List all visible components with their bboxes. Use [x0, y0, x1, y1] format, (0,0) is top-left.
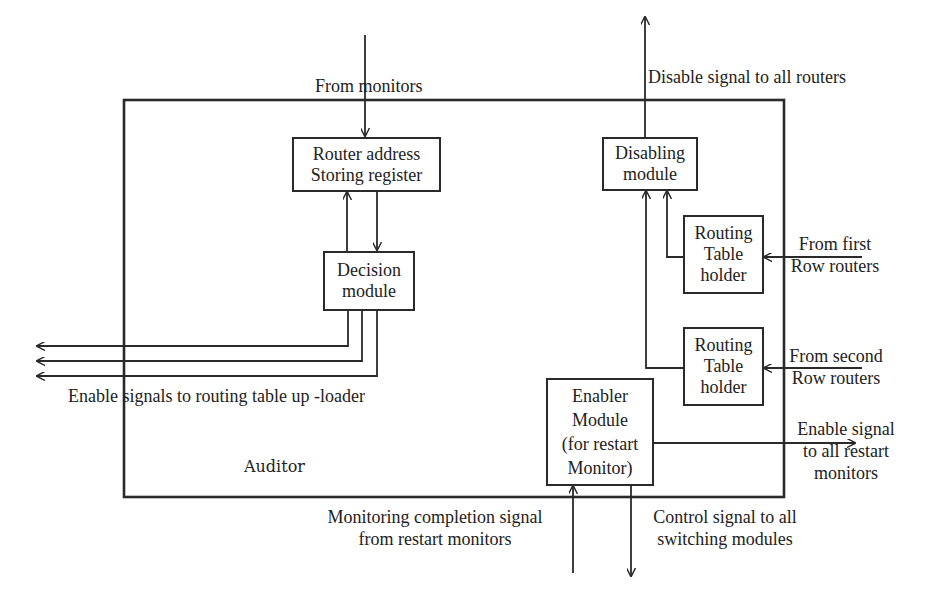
disabling-module-box: Disabling module: [602, 137, 698, 191]
decision-box-line2: module: [342, 281, 396, 302]
routing1-line3: holder: [701, 265, 747, 286]
disabling-box-line1: Disabling: [615, 143, 685, 164]
enabler-module-box: Enabler Module (for restart Monitor): [546, 378, 654, 486]
from-first-line1: From first: [785, 233, 885, 255]
monitoring-line1: Monitoring completion signal: [300, 506, 570, 528]
enable-restart-label: Enable signal to all restart monitors: [786, 418, 906, 484]
disabling-box-line2: module: [623, 164, 677, 185]
from-first-line2: Row routers: [785, 255, 885, 277]
enable-uploader-label: Enable signals to routing table up -load…: [68, 385, 365, 407]
routing1-line2: Table: [704, 244, 744, 265]
enable-restart-line2: to all restart: [786, 440, 906, 462]
enable-restart-line1: Enable signal: [786, 418, 906, 440]
from-second-line1: From second: [786, 345, 886, 367]
routing1-line1: Routing: [694, 223, 752, 244]
router-box-line1: Router address: [313, 144, 420, 165]
decision-box-line1: Decision: [337, 260, 401, 281]
from-monitors-label: From monitors: [315, 75, 423, 97]
control-signal-label: Control signal to all switching modules: [636, 506, 814, 550]
auditor-label: Auditor: [244, 456, 305, 478]
enabler-line2: Module: [572, 408, 628, 432]
routing2-line2: Table: [704, 356, 744, 377]
control-line2: switching modules: [636, 528, 814, 550]
control-line1: Control signal to all: [636, 506, 814, 528]
enable-restart-line3: monitors: [786, 462, 906, 484]
monitoring-line2: from restart monitors: [300, 528, 570, 550]
disable-signal-label: Disable signal to all routers: [648, 66, 846, 88]
routing2-line3: holder: [701, 377, 747, 398]
from-second-line2: Row routers: [786, 367, 886, 389]
enabler-line3: (for restart: [562, 432, 638, 456]
enabler-line1: Enabler: [572, 384, 628, 408]
decision-module-box: Decision module: [323, 251, 415, 311]
routing-table-holder-2-box: Routing Table holder: [683, 327, 764, 406]
router-address-register-box: Router address Storing register: [292, 137, 441, 192]
monitoring-completion-label: Monitoring completion signal from restar…: [300, 506, 570, 550]
routing-table-holder-1-box: Routing Table holder: [683, 215, 764, 294]
routing2-line1: Routing: [694, 335, 752, 356]
router-box-line2: Storing register: [311, 165, 422, 186]
from-first-row-label: From first Row routers: [785, 233, 885, 277]
enabler-line4: Monitor): [568, 456, 633, 480]
from-second-row-label: From second Row routers: [786, 345, 886, 389]
